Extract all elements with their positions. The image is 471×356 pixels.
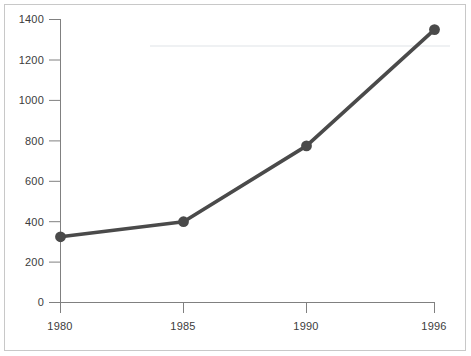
plot-area xyxy=(0,0,471,356)
x-tick-label-1980: 1980 xyxy=(47,320,72,332)
data-point-1990 xyxy=(301,141,312,152)
data-line-series-1 xyxy=(61,30,435,237)
x-tick-label-1990: 1990 xyxy=(293,320,318,332)
y-tick-label-1200: 1200 xyxy=(8,54,44,66)
y-tick-label-800: 800 xyxy=(8,135,44,147)
data-point-markers xyxy=(55,24,440,242)
x-tick-label-1985: 1985 xyxy=(170,320,195,332)
y-tick-label-1400: 1400 xyxy=(8,13,44,25)
y-tick-label-400: 400 xyxy=(8,216,44,228)
y-axis-ticks xyxy=(49,20,60,303)
y-tick-label-1000: 1000 xyxy=(8,94,44,106)
y-tick-label-0: 0 xyxy=(8,296,44,308)
y-tick-label-600: 600 xyxy=(8,175,44,187)
x-tick-label-1996: 1996 xyxy=(421,320,446,332)
y-tick-label-200: 200 xyxy=(8,256,44,268)
data-point-1996 xyxy=(429,24,440,35)
data-point-1980 xyxy=(55,231,66,242)
x-axis-ticks xyxy=(61,302,435,313)
data-point-1985 xyxy=(178,216,189,227)
chart-figure: 1400 1200 1000 800 600 400 200 0 1980 19… xyxy=(0,0,471,356)
